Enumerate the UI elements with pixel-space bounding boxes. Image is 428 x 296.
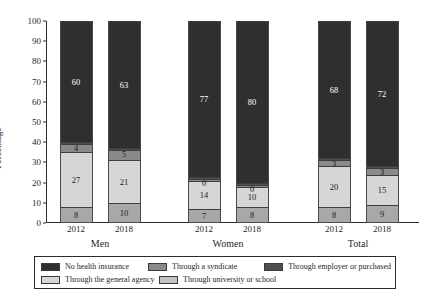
- bar-segment-value: 72: [378, 90, 387, 99]
- x-axis-tick-label: 2012: [195, 224, 213, 234]
- bar-segment: 27: [60, 152, 93, 207]
- bar-segment: 1: [60, 142, 93, 144]
- bar-segment-value: 80: [248, 98, 257, 107]
- bar-total-2012[interactable]: 8203168: [318, 21, 351, 223]
- x-axis-group-label-men: Men: [91, 238, 109, 249]
- bar-segment-value: 7: [202, 212, 206, 221]
- bar-segment-value: 5: [122, 150, 126, 159]
- legend-item-through-a-syndicate[interactable]: Through a syndicate: [148, 263, 264, 271]
- bar-segment-value: 10: [120, 209, 129, 218]
- bar-segment-value: 4: [74, 144, 78, 153]
- bar-segment: 3: [366, 168, 399, 174]
- legend-item-through-employer-or-purchased[interactable]: Through employer or purchased: [264, 263, 391, 271]
- bar-segment-value: 60: [72, 78, 81, 87]
- legend-label-through-university-or-school: Through university or school: [183, 276, 276, 284]
- bar-women-2018[interactable]: 8100080: [236, 21, 269, 223]
- bar-segment: 7: [188, 209, 221, 223]
- bar-segment: 80: [236, 21, 269, 183]
- bar-segment: 15: [366, 175, 399, 205]
- y-axis-tick-mark: [43, 162, 46, 163]
- bar-segment: 5: [108, 150, 141, 160]
- bar-total-2018[interactable]: 9153172: [366, 21, 399, 223]
- y-axis-tick-mark: [43, 182, 46, 183]
- y-axis-tick-mark: [43, 41, 46, 42]
- bar-men-2018[interactable]: 10215163: [108, 21, 141, 223]
- chart-legend: No health insurance Through a syndicate …: [34, 256, 396, 289]
- y-axis-tick-mark: [43, 142, 46, 143]
- bar-segment: 21: [108, 160, 141, 202]
- bar-men-2012[interactable]: 8274160: [60, 21, 93, 223]
- bar-segment: 1: [366, 166, 399, 168]
- y-axis-title: Percentage: [0, 127, 3, 169]
- bar-segment-value: 8: [332, 211, 336, 220]
- y-axis-tick-mark: [43, 81, 46, 82]
- plot-area: 0102030405060708090100827416010215163714…: [46, 21, 418, 223]
- bar-segment: 60: [60, 21, 93, 142]
- legend-swatch-through-the-general-agency: [41, 276, 60, 284]
- x-axis-tick-label: 2018: [373, 224, 391, 234]
- bar-segment-value: 14: [200, 191, 209, 200]
- bar-segment-value: 77: [200, 95, 209, 104]
- legend-label-through-the-general-agency: Through the general agency: [65, 276, 155, 284]
- y-axis-tick-mark: [43, 223, 46, 224]
- bar-women-2012[interactable]: 7140077: [188, 21, 221, 223]
- bar-segment: 3: [318, 160, 351, 166]
- bar-segment: 0: [188, 179, 221, 181]
- bar-segment-value: 8: [74, 211, 78, 220]
- bar-segment: 10: [236, 187, 269, 207]
- bar-segment: 1: [108, 148, 141, 150]
- bar-segment-value: 27: [72, 176, 81, 185]
- x-axis-tick-label: 2018: [115, 224, 133, 234]
- x-axis-tick-label: 2018: [243, 224, 261, 234]
- legend-swatch-no-health-insurance: [41, 263, 60, 271]
- legend-row-1: No health insurance Through a syndicate …: [41, 260, 391, 273]
- bar-segment: 1: [318, 158, 351, 160]
- bar-segment: 10: [108, 203, 141, 223]
- chart-figure: Percentage 01020304050607080901008274160…: [0, 0, 428, 296]
- bar-segment: 0: [188, 177, 221, 179]
- legend-label-through-a-syndicate: Through a syndicate: [172, 263, 237, 271]
- bar-segment: 9: [366, 205, 399, 223]
- bar-segment: 0: [236, 185, 269, 187]
- bar-segment: 0: [236, 183, 269, 185]
- legend-swatch-through-employer-or-purchased: [264, 263, 283, 271]
- legend-swatch-through-university-or-school: [159, 276, 178, 284]
- bar-segment-value: 21: [120, 178, 129, 187]
- y-axis-tick-mark: [43, 61, 46, 62]
- legend-label-no-health-insurance: No health insurance: [65, 263, 129, 271]
- y-axis-tick-mark: [43, 202, 46, 203]
- y-axis-tick-mark: [43, 101, 46, 102]
- legend-item-no-health-insurance[interactable]: No health insurance: [41, 263, 148, 271]
- bar-segment: 8: [60, 207, 93, 223]
- bar-segment-value: 10: [248, 193, 257, 202]
- legend-swatch-through-a-syndicate: [148, 263, 167, 271]
- bar-segment-value: 9: [380, 210, 384, 219]
- y-axis-tick-mark: [43, 21, 46, 22]
- bar-segment-value: 20: [330, 183, 339, 192]
- y-axis-tick-mark: [43, 122, 46, 123]
- legend-row-2: Through the general agency Through unive…: [41, 273, 391, 286]
- bar-segment: 72: [366, 21, 399, 166]
- bar-segment: 14: [188, 181, 221, 209]
- legend-item-through-the-general-agency[interactable]: Through the general agency: [41, 276, 159, 284]
- bar-segment: 77: [188, 21, 221, 177]
- x-axis-group-label-total: Total: [348, 238, 368, 249]
- bar-segment: 8: [318, 207, 351, 223]
- bar-segment-value: 8: [250, 211, 254, 220]
- legend-label-through-employer-or-purchased: Through employer or purchased: [288, 263, 391, 271]
- x-axis-tick-label: 2012: [67, 224, 85, 234]
- legend-item-through-university-or-school[interactable]: Through university or school: [159, 276, 287, 284]
- bar-segment: 20: [318, 166, 351, 206]
- bar-segment-value: 68: [330, 86, 339, 95]
- bar-segment: 4: [60, 144, 93, 152]
- bar-segment: 8: [236, 207, 269, 223]
- bar-segment: 68: [318, 21, 351, 158]
- bar-segment-value: 63: [120, 81, 129, 90]
- bar-segment-value: 15: [378, 186, 387, 195]
- bar-segment: 63: [108, 21, 141, 148]
- x-axis-group-label-women: Women: [213, 238, 244, 249]
- x-axis-tick-label: 2012: [325, 224, 343, 234]
